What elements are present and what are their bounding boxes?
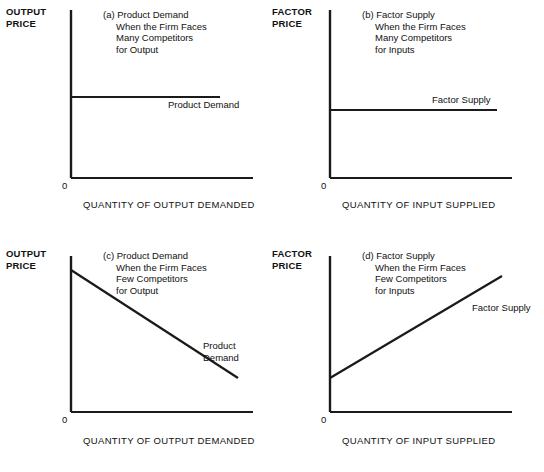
panel-c: OUTPUT PRICE (c) Product Demand When the… [0, 236, 272, 472]
figure-container: OUTPUT PRICE (a) Product Demand When the… [0, 0, 544, 472]
origin-label: 0 [62, 180, 67, 191]
panel-caption: (a) Product Demand When the Firm Faces M… [103, 9, 207, 55]
curve-label-factor-supply: Factor Supply [472, 302, 531, 314]
panel-d: FACTOR PRICE (d) Factor Supply When the … [272, 236, 544, 472]
origin-label: 0 [62, 414, 67, 425]
x-axis-title: QUANTITY OF INPUT SUPPLIED [342, 435, 495, 446]
x-axis-title: QUANTITY OF OUTPUT DEMANDED [83, 199, 255, 210]
panel-b: FACTOR PRICE (b) Factor Supply When the … [272, 0, 544, 236]
x-axis-title: QUANTITY OF OUTPUT DEMANDED [83, 435, 255, 446]
panel-caption: (d) Factor Supply When the Firm Faces Fe… [362, 250, 466, 296]
curve-label-factor-supply: Factor Supply [432, 94, 491, 106]
x-axis-title: QUANTITY OF INPUT SUPPLIED [342, 199, 495, 210]
panel-a: OUTPUT PRICE (a) Product Demand When the… [0, 0, 272, 236]
curve-label-product-demand: Product Demand [168, 99, 239, 111]
panel-caption: (b) Factor Supply When the Firm Faces Ma… [362, 9, 466, 55]
curve-label-product-demand: Product Demand [203, 340, 239, 363]
panel-caption: (c) Product Demand When the Firm Faces F… [103, 250, 207, 296]
origin-label: 0 [321, 414, 326, 425]
origin-label: 0 [321, 180, 326, 191]
